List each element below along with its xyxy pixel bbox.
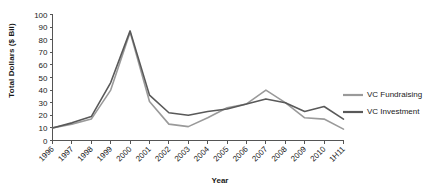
y-tick-label: 40 [39, 86, 48, 95]
x-tick-label: 2005 [212, 144, 231, 163]
x-tick-label: 2000 [115, 144, 134, 163]
x-tick-label: 1H11 [327, 144, 347, 164]
chart-canvas: 0102030405060708090100 19961997199819992… [0, 0, 442, 193]
y-tick-label: 20 [39, 111, 48, 120]
x-axis-tick-group: 1996199719981999200020012002200320042005… [37, 141, 347, 165]
y-tick-label: 50 [39, 74, 48, 83]
x-tick-label: 2007 [250, 144, 269, 163]
x-tick-label: 1997 [56, 144, 75, 163]
y-tick-label: 70 [39, 48, 48, 57]
x-tick-label: 1999 [95, 144, 114, 163]
x-tick-label: 2004 [192, 144, 211, 163]
legend-label-1: VC Fundraising [367, 90, 422, 99]
x-tick-label: 1998 [76, 144, 95, 163]
legend-label-2: VC Investment [367, 107, 420, 116]
series-group [53, 31, 344, 129]
y-tick-label: 90 [39, 23, 48, 32]
y-tick-label: 60 [39, 61, 48, 70]
x-tick-label: 2003 [173, 144, 192, 163]
x-tick-label: 2010 [309, 144, 328, 163]
line-chart: Total Dollars ($ Bil) Year 0102030405060… [0, 0, 442, 193]
y-tick-label: 10 [39, 124, 48, 133]
y-tick-label: 30 [39, 99, 48, 108]
y-tick-label: 100 [34, 11, 48, 20]
y-tick-label: 80 [39, 36, 48, 45]
series-line-vc-fundraising [53, 32, 344, 129]
x-tick-label: 2009 [289, 144, 308, 163]
x-tick-label: 2006 [231, 144, 250, 163]
chart-legend: VC FundraisingVC Investment [343, 90, 422, 116]
x-tick-label: 2008 [270, 144, 289, 163]
y-axis-tick-group: 0102030405060708090100 [34, 11, 52, 146]
y-tick-label: 0 [43, 137, 48, 146]
x-tick-label: 1996 [37, 144, 56, 163]
x-tick-label: 2001 [134, 144, 153, 163]
x-tick-label: 2002 [153, 144, 172, 163]
